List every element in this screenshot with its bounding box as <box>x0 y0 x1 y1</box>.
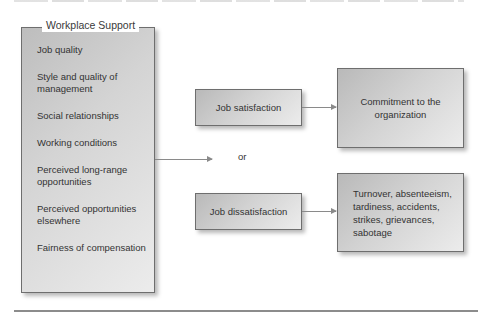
job-satisfaction-label: Job satisfaction <box>216 102 281 113</box>
support-item-long-range-opportunities: Perceived long-range opportunities <box>37 164 148 188</box>
support-item-working-conditions: Working conditions <box>37 137 148 149</box>
job-satisfaction-box: Job satisfaction <box>195 89 302 126</box>
support-item-management: Style and quality of management <box>37 71 148 95</box>
commitment-box: Commitment to the organization <box>337 68 464 148</box>
withdrawal-behaviors-label: Turnover, absenteeism, tardiness, accide… <box>353 187 457 239</box>
workplace-support-list: Job quality Style and quality of managem… <box>37 44 148 269</box>
job-dissatisfaction-label: Job dissatisfaction <box>210 206 288 217</box>
support-item-opportunities-elsewhere: Perceived opportunities elsewhere <box>37 203 148 227</box>
arrow-support-to-outcome-icon <box>155 159 212 160</box>
support-item-job-quality: Job quality <box>37 44 148 56</box>
cropped-figure-heading <box>14 0 464 2</box>
job-dissatisfaction-box: Job dissatisfaction <box>195 193 302 230</box>
support-item-social-relationships: Social relationships <box>37 110 148 122</box>
bottom-divider <box>14 310 478 312</box>
or-label: or <box>238 151 246 162</box>
workplace-support-panel: Job quality Style and quality of managem… <box>21 27 155 293</box>
arrow-satisfaction-to-commitment-icon <box>302 107 336 108</box>
arrow-dissatisfaction-to-behaviors-icon <box>302 211 336 212</box>
workplace-support-title: Workplace Support <box>42 18 139 32</box>
support-item-fairness-of-compensation: Fairness of compensation <box>37 242 148 254</box>
commitment-label: Commitment to the organization <box>356 95 446 121</box>
withdrawal-behaviors-box: Turnover, absenteeism, tardiness, accide… <box>337 173 464 252</box>
